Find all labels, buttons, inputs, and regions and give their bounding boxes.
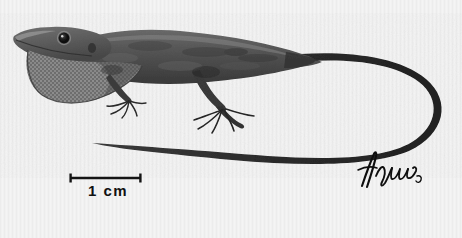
- eye-shape: [59, 33, 70, 44]
- illustration-canvas: [0, 0, 462, 238]
- ear-opening: [88, 43, 96, 53]
- scale-bar-label: 1 cm: [68, 182, 148, 199]
- hip-shading: [192, 66, 220, 78]
- shoulder-shading: [101, 65, 123, 75]
- eye-glint: [61, 35, 63, 37]
- lizard-figure-plate: 1 cm: [0, 0, 462, 238]
